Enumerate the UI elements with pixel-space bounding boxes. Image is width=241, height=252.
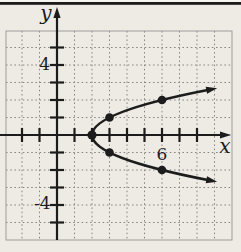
y-tick-label-4: 4 [39, 54, 50, 74]
curve-point [105, 113, 114, 122]
curve-point [158, 166, 167, 175]
curve-point [105, 148, 114, 157]
paper-background [0, 0, 241, 252]
x-tick-label-6: 6 [157, 144, 168, 164]
y-tick-label-neg4: -4 [34, 193, 51, 213]
graph-svg: yx4-46 [0, 0, 241, 252]
x-axis-letter: x [219, 134, 230, 158]
top-rule [0, 2, 241, 5]
top-margin [0, 0, 241, 2]
textbook-graph-figure: yx4-46 [0, 0, 241, 252]
vertex-point [87, 130, 96, 139]
y-axis-letter: y [39, 1, 52, 25]
curve-point [158, 96, 167, 105]
